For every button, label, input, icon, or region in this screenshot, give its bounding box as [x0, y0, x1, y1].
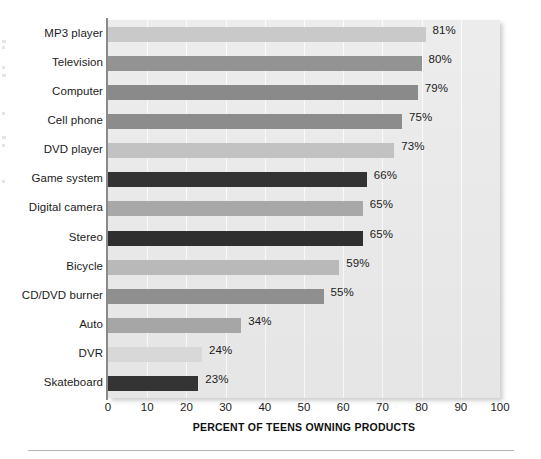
- bar-row: 59%: [108, 253, 500, 282]
- x-tick-label: 100: [490, 401, 509, 413]
- x-tick-label: 10: [141, 401, 154, 413]
- bar-value-label: 75%: [409, 111, 432, 123]
- bar: [108, 347, 202, 362]
- category-label: Digital camera: [0, 201, 103, 213]
- bar-row: 23%: [108, 369, 500, 398]
- bar: [108, 143, 394, 158]
- bar: [108, 318, 241, 333]
- bar-value-label: 80%: [429, 53, 452, 65]
- bar-value-label: 66%: [374, 169, 397, 181]
- bar-value-label: 73%: [401, 140, 424, 152]
- bar-row: 81%: [108, 20, 500, 49]
- bar-row: 75%: [108, 107, 500, 136]
- bar-row: 66%: [108, 165, 500, 194]
- bar: [108, 260, 339, 275]
- category-label: Television: [0, 56, 103, 68]
- x-tick-label: 90: [454, 401, 467, 413]
- bar-row: 65%: [108, 224, 500, 253]
- category-label: DVD player: [0, 143, 103, 155]
- bar-row: 73%: [108, 136, 500, 165]
- category-label: DVR: [0, 347, 103, 359]
- category-label: Auto: [0, 318, 103, 330]
- bar-row: 34%: [108, 311, 500, 340]
- category-label: MP3 player: [0, 27, 103, 39]
- category-label: Skateboard: [0, 376, 103, 388]
- x-tick-label: 60: [337, 401, 350, 413]
- bar-value-label: 23%: [205, 373, 228, 385]
- bar-row: 80%: [108, 49, 500, 78]
- bar: [108, 289, 324, 304]
- bar-value-label: 34%: [248, 315, 271, 327]
- bar-value-label: 55%: [331, 286, 354, 298]
- bar-value-label: 65%: [370, 228, 393, 240]
- bar-row: 65%: [108, 194, 500, 223]
- category-axis-labels: MP3 playerTelevisionComputerCell phoneDV…: [0, 20, 103, 398]
- bar-chart: MP3 playerTelevisionComputerCell phoneDV…: [0, 0, 541, 459]
- bar-value-label: 81%: [433, 24, 456, 36]
- bar-row: 79%: [108, 78, 500, 107]
- bar: [108, 56, 422, 71]
- bar: [108, 27, 426, 42]
- category-label: Bicycle: [0, 260, 103, 272]
- category-label: Computer: [0, 85, 103, 97]
- category-label: Stereo: [0, 231, 103, 243]
- bar: [108, 172, 367, 187]
- x-tick-label: 0: [105, 401, 111, 413]
- bar-value-label: 79%: [425, 82, 448, 94]
- bar-value-label: 59%: [346, 257, 369, 269]
- category-label: Cell phone: [0, 114, 103, 126]
- x-axis-tick-labels: 0102030405060708090100: [0, 401, 541, 417]
- bar-series: 81%80%79%75%73%66%65%65%59%55%34%24%23%: [108, 20, 500, 398]
- x-tick-label: 50: [298, 401, 311, 413]
- bar-value-label: 24%: [209, 344, 232, 356]
- bar: [108, 114, 402, 129]
- x-tick-label: 80: [415, 401, 428, 413]
- x-tick-label: 20: [180, 401, 193, 413]
- x-tick-label: 40: [258, 401, 271, 413]
- category-label: CD/DVD burner: [0, 289, 103, 301]
- bar-row: 55%: [108, 282, 500, 311]
- x-tick-label: 70: [376, 401, 389, 413]
- category-label: Game system: [0, 172, 103, 184]
- bar: [108, 231, 363, 246]
- bar: [108, 376, 198, 391]
- bar: [108, 201, 363, 216]
- chart-page: MP3 playerTelevisionComputerCell phoneDV…: [0, 0, 541, 459]
- footer-divider: [28, 450, 514, 451]
- bar-row: 24%: [108, 340, 500, 369]
- x-axis-title: PERCENT OF TEENS OWNING PRODUCTS: [108, 421, 500, 433]
- bar: [108, 85, 418, 100]
- bar-value-label: 65%: [370, 198, 393, 210]
- x-tick-label: 30: [219, 401, 232, 413]
